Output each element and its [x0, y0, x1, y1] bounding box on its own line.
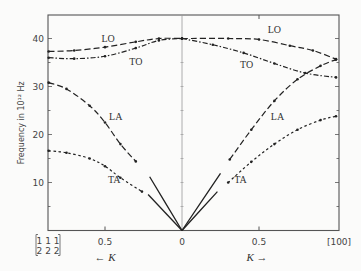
data-point — [273, 143, 276, 146]
label-ta-right: TA — [234, 174, 247, 185]
data-point — [312, 49, 315, 52]
dispersion-curves — [47, 37, 337, 230]
data-point — [227, 37, 230, 40]
x-axis-label-right: K → — [245, 251, 267, 263]
data-point — [119, 143, 122, 146]
label-lo-right: LO — [268, 24, 281, 35]
x-center-label: 0 — [179, 237, 185, 247]
curve-la-slope-left — [150, 177, 182, 231]
data-point — [73, 57, 76, 60]
curve-lo-right — [182, 38, 336, 59]
y-tick-label: 30 — [33, 82, 45, 92]
data-point — [273, 100, 276, 103]
label-to-right: TO — [240, 59, 253, 70]
data-point — [258, 38, 261, 41]
label-to-left: TO — [129, 56, 142, 67]
curve-ta-slope-right — [182, 192, 217, 231]
data-point — [304, 72, 307, 75]
data-point — [227, 181, 230, 184]
data-point — [319, 119, 322, 122]
label-la-right: LA — [271, 111, 285, 122]
data-point — [47, 150, 50, 153]
data-point — [212, 43, 215, 46]
x-tick-label-left: 0.5 — [98, 237, 112, 247]
data-point — [319, 65, 322, 68]
data-point — [135, 41, 138, 44]
curve-la-right — [230, 60, 336, 160]
data-point — [250, 161, 253, 164]
data-point — [65, 88, 68, 91]
data-point — [250, 128, 253, 131]
data-point — [65, 151, 68, 154]
data-point — [104, 55, 107, 58]
phonon-dispersion-chart: LOTOLATALOTOLATA 10203040Frequency in 10… — [0, 0, 361, 271]
x-axis-label-left: ← K — [94, 251, 116, 263]
x-tick-label-right: 0.5 — [252, 237, 266, 247]
label-ta-left: TA — [108, 174, 121, 185]
data-point — [104, 46, 107, 49]
data-point — [181, 37, 184, 40]
data-point — [289, 44, 292, 47]
data-point — [47, 56, 50, 59]
label-la-left: LA — [109, 111, 123, 122]
data-point — [47, 50, 50, 53]
y-tick-label: 40 — [33, 34, 45, 44]
data-point — [88, 157, 91, 160]
data-point — [141, 190, 144, 193]
curve-ta-right — [228, 116, 336, 182]
data-point — [104, 121, 107, 124]
zone-boundary-numerator: 1 1 1 — [37, 236, 60, 246]
y-tick-label: 10 — [33, 178, 45, 188]
data-point — [88, 104, 91, 107]
data-point — [104, 165, 107, 168]
data-point — [135, 160, 138, 163]
curve-la-left — [49, 83, 136, 162]
curve-la-slope-right — [182, 173, 221, 230]
curve-to-right — [182, 39, 336, 78]
data-point — [242, 52, 245, 55]
data-point — [296, 78, 299, 81]
data-point — [135, 47, 138, 50]
curve-ta-left — [49, 151, 142, 192]
data-point — [47, 81, 50, 84]
y-axis-label: Frequency in 10¹² Hz — [17, 81, 26, 164]
data-point — [335, 58, 338, 61]
label-lo-left: LO — [101, 33, 114, 44]
data-point — [228, 158, 231, 161]
x-end-label-100: [100] — [327, 237, 351, 247]
data-point — [73, 49, 76, 52]
curve-to-left — [49, 39, 182, 59]
data-point — [273, 62, 276, 65]
zone-boundary-denominator: 2 2 2 — [37, 246, 60, 256]
curve-labels: LOTOLATALOTOLATA — [101, 24, 285, 186]
y-tick-label: 20 — [33, 130, 45, 140]
data-point — [158, 39, 161, 42]
data-point — [296, 128, 299, 131]
data-point — [335, 76, 338, 79]
curve-ta-slope-left — [148, 195, 182, 231]
data-point — [335, 115, 338, 118]
